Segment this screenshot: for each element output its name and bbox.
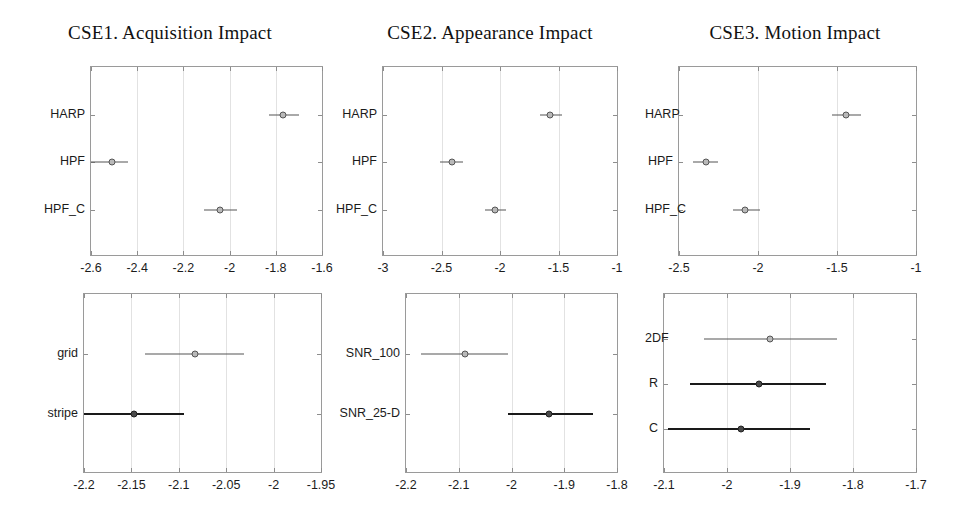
y-tick-mark <box>664 429 668 430</box>
x-tick-label: -2.1 <box>653 478 675 492</box>
panel-cse1: CSE1. Acquisition Impact -2.6-2.4-2.2-2-… <box>0 22 340 282</box>
x-tick-label: -2.2 <box>173 261 195 275</box>
gridline-vertical <box>853 294 854 472</box>
category-label: HPF <box>0 154 85 168</box>
x-tick-mark <box>664 294 665 298</box>
y-tick-mark <box>912 384 916 385</box>
x-tick-mark <box>274 468 275 472</box>
x-tick-mark <box>679 251 680 255</box>
y-tick-mark <box>912 339 916 340</box>
x-tick-mark <box>406 468 407 472</box>
x-tick-mark <box>727 468 728 472</box>
axes-model <box>663 293 917 473</box>
x-tick-mark <box>512 468 513 472</box>
gridline-vertical <box>137 67 138 255</box>
x-tick-mark <box>230 251 231 255</box>
category-label: 2DF <box>645 331 658 345</box>
x-tick-label: -1.9 <box>553 478 575 492</box>
panel-cse2: CSE2. Appearance Impact -3-2.5-2-1.5-1HA… <box>330 22 650 282</box>
y-tick-mark <box>406 414 410 415</box>
panel-snr: -2.2-2.1-2-1.9-1.8SNR_100SNR_25-D <box>330 293 650 523</box>
x-tick-mark <box>916 294 917 298</box>
x-tick-mark <box>679 67 680 71</box>
x-tick-mark <box>500 251 501 255</box>
y-tick-mark <box>318 115 322 116</box>
axes-cse2 <box>382 66 618 256</box>
x-tick-mark <box>383 251 384 255</box>
y-tick-mark <box>912 115 916 116</box>
y-tick-mark <box>91 115 95 116</box>
x-tick-mark <box>131 468 132 472</box>
x-tick-mark <box>84 468 85 472</box>
x-tick-mark <box>617 251 618 255</box>
x-tick-mark <box>84 294 85 298</box>
y-tick-mark <box>317 414 321 415</box>
x-tick-label: -2.15 <box>117 478 146 492</box>
panel-model: -2.1-2-1.9-1.8-1.72DFRC <box>645 293 969 523</box>
category-label: SNR_100 <box>330 346 400 360</box>
category-label: C <box>645 421 658 435</box>
gridline-vertical <box>564 294 565 472</box>
y-tick-mark <box>84 354 88 355</box>
x-tick-mark <box>758 67 759 71</box>
x-tick-label: -2 <box>506 478 517 492</box>
gridline-vertical <box>179 294 180 472</box>
x-tick-label: -2 <box>224 261 235 275</box>
x-tick-mark <box>226 468 227 472</box>
data-point-marker <box>755 381 762 388</box>
gridline-vertical <box>131 294 132 472</box>
x-tick-mark <box>790 294 791 298</box>
x-tick-mark <box>179 294 180 298</box>
x-tick-mark <box>459 468 460 472</box>
y-tick-mark <box>912 162 916 163</box>
gridline-vertical <box>500 67 501 255</box>
x-tick-label: -2.6 <box>80 261 102 275</box>
axes-cse1 <box>90 66 323 256</box>
x-tick-label: -2.1 <box>168 478 190 492</box>
y-tick-mark <box>613 210 617 211</box>
x-tick-label: -1.5 <box>826 261 848 275</box>
data-point-marker <box>546 411 553 418</box>
y-tick-mark <box>613 162 617 163</box>
gridline-vertical <box>837 67 838 255</box>
data-point-marker <box>108 159 115 166</box>
x-tick-mark <box>383 67 384 71</box>
gridline-vertical <box>274 294 275 472</box>
y-tick-mark <box>664 384 668 385</box>
data-point-marker <box>843 111 850 118</box>
gridline-vertical <box>459 294 460 472</box>
x-tick-mark <box>459 294 460 298</box>
x-tick-mark <box>500 67 501 71</box>
panel-cse3: CSE3. Motion Impact -2.5-2-1.5-1HARPHPFH… <box>645 22 969 282</box>
x-tick-label: -1.5 <box>548 261 570 275</box>
x-tick-mark <box>137 251 138 255</box>
y-tick-mark <box>912 429 916 430</box>
x-tick-mark <box>226 294 227 298</box>
data-point-marker <box>449 159 456 166</box>
gridline-vertical <box>512 294 513 472</box>
x-tick-label: -1.8 <box>842 478 864 492</box>
data-point-marker <box>767 336 774 343</box>
category-label: SNR_25-D <box>330 406 400 420</box>
x-tick-mark <box>321 294 322 298</box>
x-tick-mark <box>322 67 323 71</box>
x-tick-mark <box>512 294 513 298</box>
x-tick-label: -2.5 <box>431 261 453 275</box>
x-tick-mark <box>131 294 132 298</box>
gridline-vertical <box>276 67 277 255</box>
x-tick-label: -2.5 <box>668 261 690 275</box>
x-tick-mark <box>837 67 838 71</box>
x-tick-mark <box>179 468 180 472</box>
category-label: HPF <box>330 154 377 168</box>
y-tick-mark <box>613 414 617 415</box>
x-tick-label: -2.4 <box>126 261 148 275</box>
gridline-vertical <box>559 67 560 255</box>
y-tick-mark <box>317 354 321 355</box>
panel-title-cse2: CSE2. Appearance Impact <box>330 22 650 44</box>
x-tick-label: -2 <box>494 261 505 275</box>
axes-snr <box>405 293 618 473</box>
y-tick-mark <box>613 354 617 355</box>
x-tick-mark <box>617 67 618 71</box>
category-label: HARP <box>0 107 85 121</box>
panel-title-cse1: CSE1. Acquisition Impact <box>0 22 340 44</box>
